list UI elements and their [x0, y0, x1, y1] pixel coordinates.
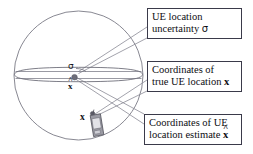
cell-coverage-circle — [14, 11, 143, 140]
leader-line-uncertainty — [79, 27, 148, 74]
callout-estimate-line2: location estimate ^x — [149, 129, 237, 141]
x-symbol: x — [224, 76, 229, 87]
callout-uncertainty-line2-text: uncertainty — [152, 23, 202, 34]
callout-true-ue-location: Coordinates of true UE location x — [147, 61, 242, 92]
callout-ue-location-uncertainty: UE location uncertainty σ — [147, 8, 242, 39]
location-uncertainty-ellipse — [15, 67, 143, 81]
sigma-symbol: σ — [202, 23, 208, 34]
sigma-label: σ — [68, 62, 74, 71]
x-true-label: x — [80, 113, 85, 122]
callout-true-line2: true UE location x — [152, 76, 237, 88]
callout-true-line2-text: true UE location — [152, 76, 224, 87]
x-hat-label: ^ x — [68, 82, 73, 91]
callout-ue-location-estimate: Coordinates of UE location estimate ^x — [144, 114, 242, 145]
callout-uncertainty-line1: UE location — [152, 11, 237, 23]
figure-canvas: σ ^ x x UE location uncertainty σ Coordi… — [0, 0, 253, 154]
uncertainty-band-lines — [16, 72, 142, 79]
x-hat-symbol: ^x — [223, 129, 228, 141]
x-hat-accent: ^ — [68, 77, 73, 85]
callout-estimate-line2-text: location estimate — [149, 129, 223, 140]
x-hat-symbol-accent: ^ — [223, 124, 228, 133]
callout-true-line1: Coordinates of — [152, 64, 237, 76]
callout-uncertainty-line2: uncertainty σ — [152, 23, 237, 35]
leader-line-estimate — [76, 77, 145, 124]
